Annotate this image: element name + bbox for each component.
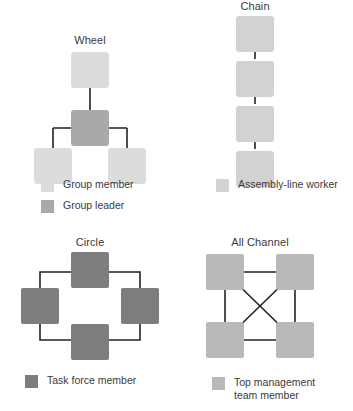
circle-node-left (21, 288, 59, 324)
panel-title-circle: Circle (0, 236, 180, 249)
legend-label-task-force-member: Task force member (47, 374, 136, 387)
panel-all-channel: All Channel Top management team member (177, 236, 353, 411)
legend-label-group-leader: Group leader (63, 199, 124, 212)
chain-diagram (167, 14, 343, 170)
communication-networks-figure: Wheel Group member Group leader Ch (0, 0, 353, 411)
all-channel-diagram (172, 250, 348, 362)
panel-title-wheel: Wheel (0, 34, 180, 47)
panel-wheel: Wheel Group member Group leader (0, 34, 180, 214)
circle-diagram (0, 250, 180, 360)
legend-swatch-group-member (41, 179, 54, 192)
legend-item-assembly-line-worker: Assembly-line worker (216, 178, 338, 192)
all-channel-node-bottom-right (276, 322, 314, 358)
legend-label-assembly-line-worker: Assembly-line worker (238, 178, 338, 191)
wheel-node-leader (71, 110, 109, 146)
legend-swatch-group-leader (41, 200, 54, 213)
legend-item-group-member: Group member (41, 178, 134, 192)
legend-swatch-task-force-member (25, 375, 38, 388)
legend-item-task-force-member: Task force member (25, 374, 136, 388)
all-channel-node-top-left (206, 254, 244, 290)
panel-chain: Chain Assembly-line worker (177, 0, 353, 200)
legend-label-group-member: Group member (63, 178, 134, 191)
panel-title-chain: Chain (167, 0, 343, 13)
chain-node-2 (236, 61, 274, 97)
chain-node-1 (236, 16, 274, 52)
circle-node-bottom (71, 324, 109, 360)
panel-title-all-channel: All Channel (172, 236, 348, 249)
circle-node-top (71, 252, 109, 288)
legend-swatch-top-management-team-member (212, 377, 225, 390)
panel-circle: Circle Task force member (0, 236, 180, 411)
wheel-diagram (0, 48, 180, 170)
legend-label-top-management-team-member: Top management team member (234, 376, 315, 402)
legend-swatch-assembly-line-worker (216, 179, 229, 192)
circle-node-right (121, 288, 159, 324)
wheel-node-member-top (71, 52, 109, 88)
all-channel-node-top-right (276, 254, 314, 290)
legend-item-group-leader: Group leader (41, 199, 124, 213)
chain-node-3 (236, 106, 274, 142)
legend-item-top-management-team-member: Top management team member (212, 376, 315, 402)
all-channel-node-bottom-left (206, 322, 244, 358)
